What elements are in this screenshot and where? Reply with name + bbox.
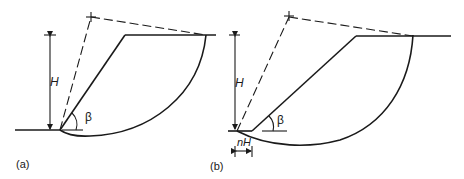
panel-b — [228, 11, 451, 157]
slope-face-b — [252, 36, 356, 131]
circle-center-b — [284, 11, 294, 21]
panel-label-b: (b) — [210, 160, 223, 172]
slope-face-a — [60, 35, 125, 130]
slip-circle-b — [237, 35, 413, 145]
angle-arc-a — [72, 113, 77, 130]
panel-a — [15, 12, 216, 136]
height-label-a: H — [50, 76, 59, 88]
angle-arc-b — [269, 116, 273, 131]
slope-stability-diagram — [0, 0, 464, 179]
height-label-b: H — [235, 77, 244, 89]
circle-center-a — [86, 12, 96, 22]
angle-label-b: β — [277, 114, 284, 126]
angle-label-a: β — [85, 111, 92, 123]
offset-label-b: nH — [237, 136, 251, 148]
radius-line-crest-b — [289, 17, 413, 36]
radius-line-crest-a — [91, 17, 206, 35]
panel-label-a: (a) — [16, 158, 29, 170]
